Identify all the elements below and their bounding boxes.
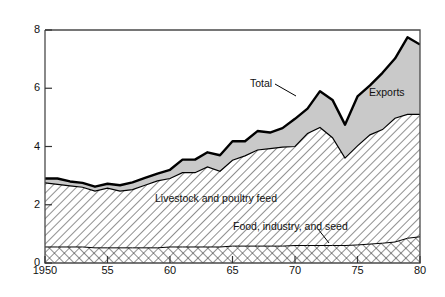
x-tick-label: 80 — [400, 264, 440, 276]
corn-utilization-area-chart — [0, 0, 445, 297]
series-label-livestock-poultry-feed: Livestock and poultry feed — [155, 192, 277, 204]
y-tick-label: 4 — [18, 140, 40, 152]
x-tick-label: 65 — [213, 264, 253, 276]
y-tick-label: 6 — [18, 81, 40, 93]
x-tick-label: 55 — [88, 264, 128, 276]
x-tick-label: 60 — [150, 264, 190, 276]
series-label-total: Total — [250, 77, 272, 89]
series-label-food-industry-seed: Food, industry, and seed — [233, 220, 348, 232]
series-label-exports: Exports — [369, 86, 405, 98]
y-tick-label: 2 — [18, 198, 40, 210]
x-tick-label: 1950 — [25, 264, 65, 276]
y-tick-label: 8 — [18, 23, 40, 35]
x-tick-label: 70 — [275, 264, 315, 276]
x-tick-label: 75 — [338, 264, 378, 276]
